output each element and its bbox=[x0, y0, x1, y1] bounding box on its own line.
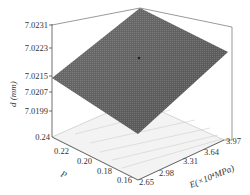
p-tick-0: 0.24 bbox=[35, 132, 51, 142]
z-tick-2: 7.0215 bbox=[25, 71, 48, 81]
e-axis-title: E(×10⁴MPa) bbox=[187, 163, 235, 190]
z-axis: 7.0231 7.0223 7.0215 7.0207 7.0199 d (mm… bbox=[8, 20, 52, 137]
p-tick-4: 0.16 bbox=[117, 175, 132, 185]
z-tick-3: 7.0207 bbox=[25, 87, 48, 97]
p-tick-2: 0.20 bbox=[77, 156, 92, 166]
surface-chart: 7.0231 7.0223 7.0215 7.0207 7.0199 d (mm… bbox=[0, 0, 250, 195]
p-tick-3: 0.18 bbox=[97, 166, 112, 176]
z-axis-title: d (mm) bbox=[8, 81, 18, 107]
z-tick-4: 7.0199 bbox=[25, 106, 48, 116]
e-tick-4: 3.97 bbox=[226, 136, 241, 146]
z-tick-0: 7.0231 bbox=[25, 20, 48, 30]
e-tick-2: 3.31 bbox=[183, 156, 198, 166]
e-tick-1: 2.98 bbox=[159, 168, 174, 178]
p-tick-1: 0.22 bbox=[54, 146, 69, 156]
e-tick-0: 2.65 bbox=[139, 177, 154, 187]
e-tick-3: 3.64 bbox=[204, 147, 220, 157]
marked-point bbox=[138, 57, 141, 60]
z-tick-1: 7.0223 bbox=[25, 43, 48, 53]
p-axis-title: P bbox=[58, 168, 69, 180]
response-surface bbox=[52, 8, 228, 134]
